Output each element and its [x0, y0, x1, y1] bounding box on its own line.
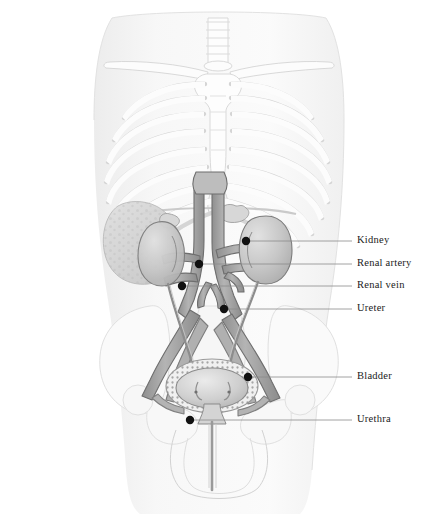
bladder-icon: [176, 368, 248, 408]
kidney-left-icon: [138, 222, 185, 286]
label-bladder: Bladder: [357, 370, 392, 381]
marker-dot-kidney: [242, 237, 250, 245]
label-kidney: Kidney: [357, 234, 389, 245]
trachea-icon: [204, 18, 232, 71]
femur-head-right-icon: [285, 385, 315, 415]
label-urethra: Urethra: [357, 413, 391, 424]
marker-dot-ureter: [220, 305, 228, 313]
illustration-canvas: KidneyRenal arteryRenal veinUreterBladde…: [0, 0, 438, 516]
label-ureter: Ureter: [357, 302, 385, 313]
label-renal-vein: Renal vein: [357, 279, 405, 290]
aorta-upper-icon: [193, 172, 227, 194]
marker-dot-urethra: [186, 416, 194, 424]
label-renal-artery: Renal artery: [357, 257, 412, 268]
marker-dot-renal-artery: [195, 260, 203, 268]
marker-dot-bladder: [244, 373, 252, 381]
marker-dot-renal-vein: [178, 282, 186, 290]
